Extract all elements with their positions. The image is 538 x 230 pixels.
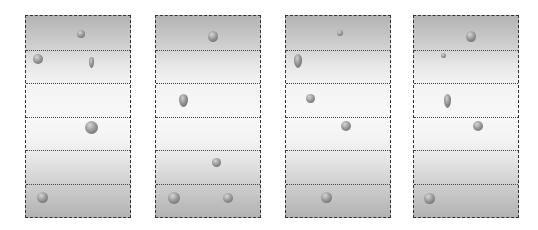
row-divider [156, 83, 260, 84]
row-divider [26, 83, 130, 84]
sphere-icon [424, 193, 435, 204]
row-divider [156, 150, 260, 151]
sphere-icon [223, 193, 233, 203]
sphere-icon [341, 121, 351, 131]
panel-1 [25, 15, 131, 218]
row-divider [26, 117, 130, 118]
row-divider [156, 117, 260, 118]
sphere-icon [321, 192, 332, 203]
drop-icon [179, 94, 188, 107]
row-divider [286, 150, 390, 151]
sphere-icon [208, 31, 218, 42]
sphere-icon [441, 53, 446, 58]
row-divider [414, 117, 518, 118]
row-divider [286, 117, 390, 118]
sphere-icon [466, 31, 476, 42]
sphere-icon [33, 54, 43, 64]
panel-2 [155, 15, 261, 218]
sphere-icon [306, 94, 315, 103]
row-divider [286, 50, 390, 51]
row-divider [26, 150, 130, 151]
drop-icon [444, 94, 451, 108]
sphere-icon [77, 30, 85, 38]
row-divider [26, 50, 130, 51]
row-divider [414, 83, 518, 84]
sphere-icon [37, 192, 48, 203]
row-divider [26, 184, 130, 185]
row-divider [156, 184, 260, 185]
sphere-icon [168, 192, 180, 204]
sphere-icon [85, 121, 98, 134]
row-divider [414, 50, 518, 51]
row-divider [156, 50, 260, 51]
row-divider [414, 184, 518, 185]
row-divider [414, 150, 518, 151]
sphere-icon [212, 158, 221, 167]
sphere-icon [337, 30, 343, 36]
sphere-icon [473, 121, 483, 131]
panel-3 [285, 15, 391, 218]
drop-icon [89, 57, 94, 68]
panel-4 [413, 15, 519, 218]
row-divider [286, 83, 390, 84]
row-divider [286, 184, 390, 185]
drop-icon [294, 54, 302, 68]
